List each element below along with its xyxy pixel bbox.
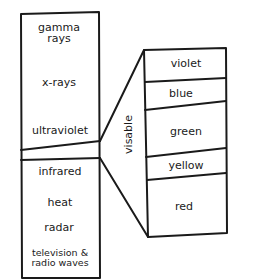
divider-yellow-red [147, 173, 226, 180]
band-infrared: infrared [26, 166, 94, 177]
color-yellow: yellow [146, 160, 226, 171]
band-x-rays: x-rays [26, 77, 92, 88]
band-television-radio: television & radio waves [22, 248, 98, 268]
visible-band-top [21, 141, 100, 150]
visible-band-bottom [21, 158, 100, 160]
divider-blue-green [145, 101, 226, 110]
band-ultraviolet: ultraviolet [22, 125, 98, 136]
color-green: green [146, 126, 226, 137]
band-heat: heat [30, 197, 90, 208]
color-blue: blue [146, 88, 216, 99]
visible-label: visable [122, 110, 135, 160]
color-red: red [146, 201, 222, 212]
band-radar: radar [26, 222, 92, 233]
band-gamma-rays: gamma rays [26, 22, 92, 44]
band-label: rays [47, 32, 71, 45]
divider-violet-blue [145, 78, 226, 82]
band-label: radio waves [31, 257, 88, 268]
connector-bottom [100, 158, 148, 237]
divider-green-yellow [146, 148, 226, 157]
color-violet: violet [146, 58, 226, 69]
